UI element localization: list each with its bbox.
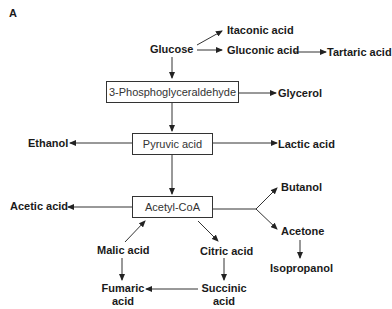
node-fumaric-acid-line2: acid bbox=[100, 295, 146, 308]
node-acetyl-coa: Acetyl-CoA bbox=[132, 196, 213, 218]
panel-label: A bbox=[9, 7, 17, 20]
node-acetic-acid: Acetic acid bbox=[10, 200, 68, 213]
node-glucose: Glucose bbox=[150, 43, 193, 56]
node-butanol: Butanol bbox=[281, 181, 322, 194]
node-pyruvic-acid-label: Pyruvic acid bbox=[143, 138, 202, 150]
node-ethanol: Ethanol bbox=[28, 137, 68, 150]
node-succinic-acid: Succinic acid bbox=[199, 282, 249, 308]
node-lactic-acid: Lactic acid bbox=[278, 138, 335, 151]
node-fumaric-acid-line1: Fumaric bbox=[100, 282, 146, 295]
node-succinic-acid-line2: acid bbox=[199, 295, 249, 308]
node-fumaric-acid: Fumaric acid bbox=[100, 282, 146, 308]
arrow-branch-acetone bbox=[256, 209, 277, 229]
arrow-malic-acetylcoa bbox=[125, 221, 145, 242]
node-malic-acid: Malic acid bbox=[97, 244, 150, 257]
node-succinic-acid-line1: Succinic bbox=[199, 282, 249, 295]
node-itaconic-acid: Itaconic acid bbox=[227, 24, 294, 37]
node-tartaric-acid: Tartaric acid bbox=[327, 46, 392, 59]
arrow-branch-butanol bbox=[256, 188, 277, 209]
node-glycerol: Glycerol bbox=[278, 87, 322, 100]
node-3-phosphoglyceraldehyde-label: 3-Phosphoglyceraldehyde bbox=[109, 86, 236, 98]
node-acetyl-coa-label: Acetyl-CoA bbox=[145, 201, 200, 213]
node-3-phosphoglyceraldehyde: 3-Phosphoglyceraldehyde bbox=[106, 81, 239, 103]
node-gluconic-acid: Gluconic acid bbox=[227, 44, 299, 57]
node-isopropanol: Isopropanol bbox=[270, 262, 333, 275]
arrow-glucose-itaconic bbox=[197, 31, 222, 45]
node-acetone: Acetone bbox=[281, 225, 324, 238]
node-citric-acid: Citric acid bbox=[200, 245, 253, 258]
arrow-acetylcoa-citric bbox=[198, 221, 218, 241]
node-pyruvic-acid: Pyruvic acid bbox=[132, 133, 213, 155]
